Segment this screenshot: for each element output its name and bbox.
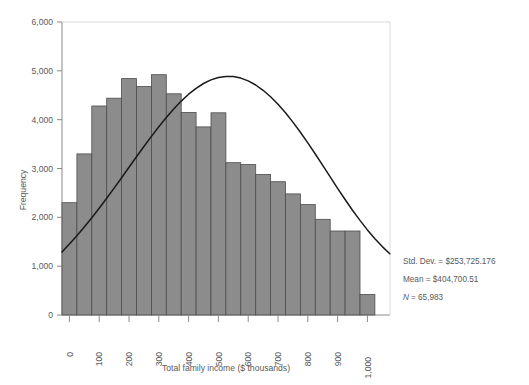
table-row [286,194,301,315]
table-row [256,174,271,315]
x-tick-label-1000: 1,000 [363,357,373,379]
table-row [360,295,375,316]
y-tick-marks [57,22,62,315]
table-row [241,165,256,315]
table-row [196,127,211,315]
table-row [226,163,241,315]
n-value: = 65,983 [411,293,444,302]
table-row [271,182,286,315]
x-tick-label-900: 900 [333,352,343,367]
table-row [211,113,226,315]
std-dev-annotation: Std. Dev. = $253,725.176 [403,257,496,266]
y-tick-label-5000: 5,000 [31,66,53,76]
histogram-figure: 0 1,000 2,000 3,000 4,000 5,000 6,000 Fr… [0,0,529,385]
table-row [137,87,152,316]
table-row [315,219,330,315]
table-row [151,75,166,315]
table-row [122,79,137,315]
table-row [107,98,122,315]
x-tick-label-800: 800 [303,352,313,367]
table-row [345,231,360,315]
y-tick-label-3000: 3,000 [31,164,53,174]
table-row [330,231,345,315]
x-axis-title: Total family income ($ thousands) [162,363,290,373]
x-tick-label-0: 0 [65,352,75,357]
table-row [181,112,196,315]
y-tick-label-0: 0 [48,310,53,320]
x-tick-label-100: 100 [94,352,104,367]
table-row [77,154,92,315]
table-row [62,203,77,315]
x-tick-marks [69,315,367,322]
x-tick-label-200: 200 [124,352,134,367]
y-tick-label-1000: 1,000 [31,261,53,271]
chart-svg: 0 1,000 2,000 3,000 4,000 5,000 6,000 Fr… [0,0,529,385]
stats-annotation-block: Std. Dev. = $253,725.176 Mean = $404,700… [403,257,496,302]
table-row [92,106,107,315]
y-axis-title: Frequency [18,169,28,210]
y-tick-label-2000: 2,000 [31,212,53,222]
n-symbol: N [403,293,409,302]
mean-annotation: Mean = $404,700.51 [403,275,479,284]
y-tick-label-6000: 6,000 [31,17,53,27]
table-row [166,94,181,315]
table-row [300,205,315,315]
y-tick-label-4000: 4,000 [31,115,53,125]
